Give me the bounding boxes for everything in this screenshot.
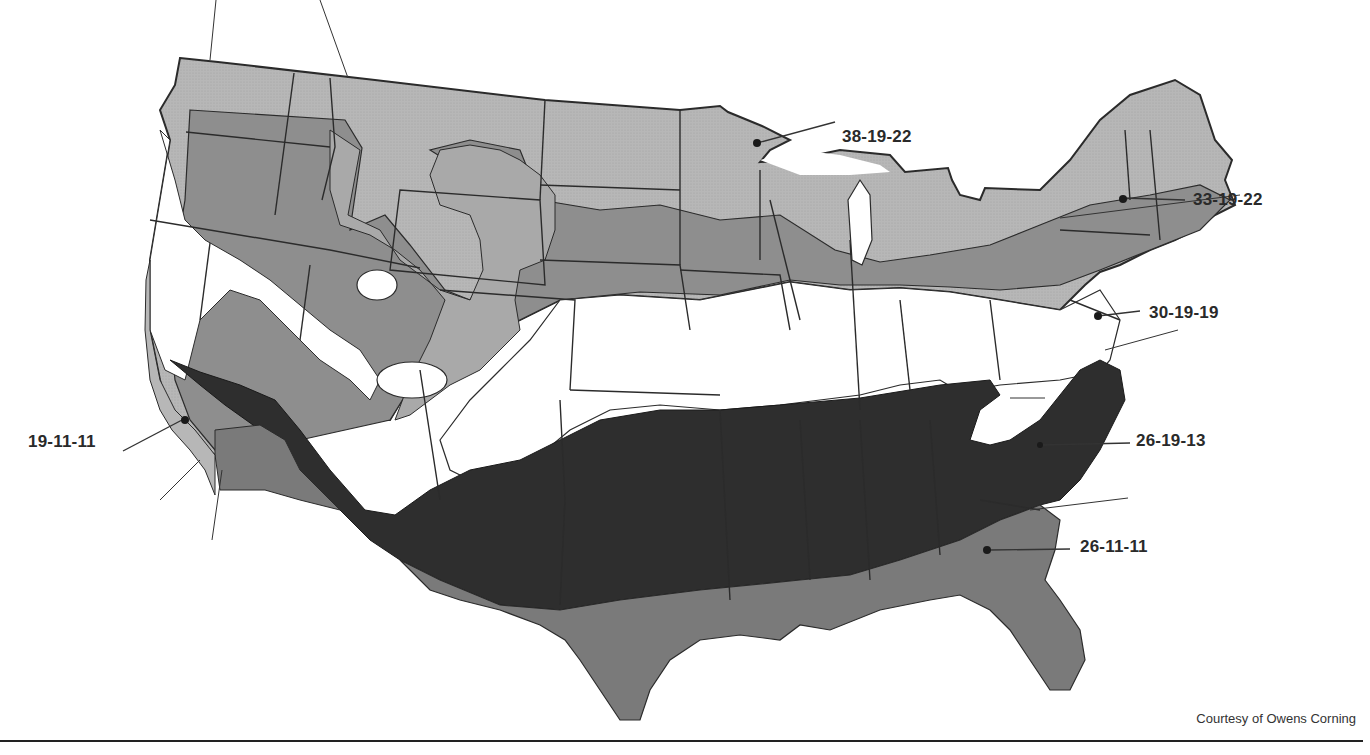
zone-label-georgia: 26-11-11 [1080,537,1148,557]
zone-label-new-england: 33-19-22 [1193,190,1263,210]
insulation-zone-map: 38-19-22 33-19-22 30-19-19 19-11-11 26-1… [0,0,1370,755]
bottom-divider [0,740,1363,742]
dot-minnesota [753,139,761,147]
dot-maryland [1094,312,1102,320]
dot-north-carolina [1037,442,1043,448]
image-credit: Courtesy of Owens Corning [1196,711,1356,726]
great-salt-lake [357,270,397,300]
zone-label-mid-atlantic: 30-19-19 [1149,303,1219,323]
us-map-graphic [0,0,1370,755]
dot-california [181,416,189,424]
dot-georgia [983,546,991,554]
dot-new-york [1119,195,1127,203]
zone-label-carolinas: 26-19-13 [1136,431,1206,451]
zone-label-minnesota: 38-19-22 [842,127,912,147]
zone-white-island-utah [377,362,447,398]
zone-label-california: 19-11-11 [28,432,96,452]
